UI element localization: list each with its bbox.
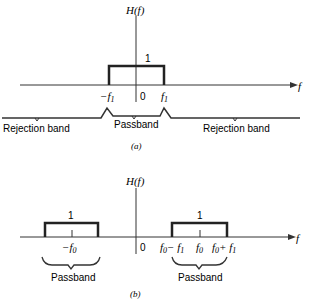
height-label-a: 1 (145, 53, 151, 64)
filter-diagram: H(f) f 1 0 −f1 f1 Rejection band Passban… (0, 0, 311, 303)
figure-b: H(f) f 1 1 0 −f0 f0− f1 f0 f0+ f1 Passba… (20, 175, 301, 299)
caption-b: (b) (130, 289, 141, 299)
y-label-a: H(f) (125, 4, 145, 17)
tick-f1: f1 (161, 90, 168, 104)
band-brackets (2, 108, 300, 118)
rejection-band-right: Rejection band (203, 123, 270, 134)
tick-neg-f1: −f1 (100, 90, 114, 104)
passband-a: Passband (114, 119, 158, 130)
arrow-icon (288, 234, 296, 240)
passband-brace-left (42, 257, 100, 269)
caption-a: (a) (131, 141, 142, 151)
origin-label-a: 0 (140, 91, 146, 102)
height-label-b-left: 1 (68, 210, 74, 221)
tick-f0: f0 (196, 241, 203, 255)
passband-b-right: Passband (178, 272, 222, 283)
rejection-band-left: Rejection band (3, 123, 70, 134)
y-label-b: H(f) (125, 175, 145, 188)
origin-label-b: 0 (140, 242, 146, 253)
figure-a: H(f) f 1 0 −f1 f1 Rejection band Passban… (2, 4, 303, 151)
x-label-a: f (298, 80, 303, 92)
arrow-icon (290, 82, 298, 88)
height-label-b-right: 1 (197, 210, 203, 221)
x-label-b: f (296, 232, 301, 244)
passband-b-left: Passband (51, 272, 95, 283)
tick-f0-plus-f1: f0+ f1 (212, 241, 236, 255)
tick-f0-minus-f1: f0− f1 (160, 241, 184, 255)
tick-neg-f0: −f0 (62, 241, 76, 255)
passband-brace-right (172, 257, 227, 269)
